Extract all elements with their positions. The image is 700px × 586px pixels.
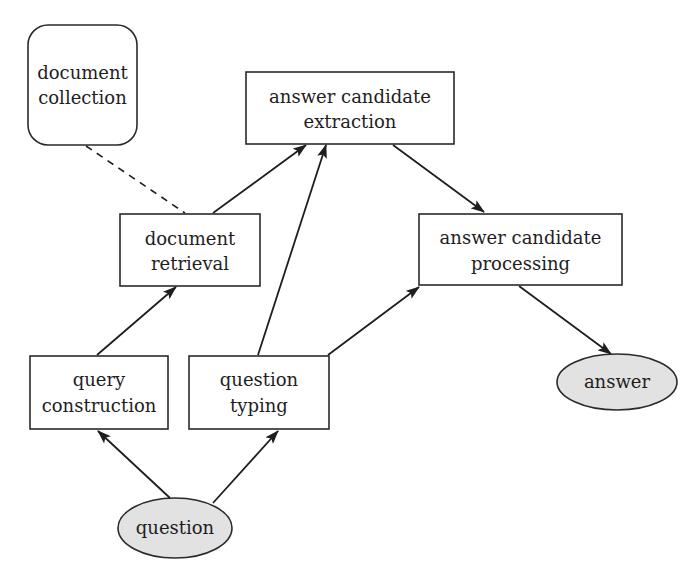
edges bbox=[86, 145, 611, 503]
question-typing-shape bbox=[189, 356, 329, 429]
edge-question-to-question-typing bbox=[213, 431, 278, 503]
question-label: question bbox=[136, 517, 215, 538]
document-retrieval-label-line1: document bbox=[145, 228, 236, 249]
question-typing-label-line2: typing bbox=[230, 395, 288, 416]
document-retrieval-label-line2: retrieval bbox=[151, 253, 229, 274]
edge-question-typing-to-processing bbox=[328, 287, 419, 355]
edge-question-typing-to-extraction bbox=[258, 145, 326, 355]
node-answer-candidate-processing: answer candidate processing bbox=[419, 214, 622, 285]
node-document-collection: document collection bbox=[28, 25, 137, 145]
node-answer: answer bbox=[557, 354, 677, 410]
edge-collection-to-retrieval bbox=[86, 146, 185, 213]
node-question-typing: question typing bbox=[189, 356, 329, 429]
qa-pipeline-diagram: document collection answer candidate ext… bbox=[0, 0, 700, 586]
node-answer-candidate-extraction: answer candidate extraction bbox=[246, 72, 454, 144]
edge-processing-to-answer bbox=[519, 286, 611, 354]
edge-retrieval-to-extraction bbox=[213, 145, 306, 213]
document-retrieval-shape bbox=[120, 214, 260, 286]
node-question: question bbox=[118, 498, 232, 558]
edge-query-construction-to-retrieval bbox=[97, 287, 176, 355]
document-collection-label-line1: document bbox=[37, 62, 128, 83]
answer-candidate-processing-shape bbox=[419, 214, 622, 285]
edge-extraction-to-processing bbox=[393, 145, 484, 212]
query-construction-shape bbox=[30, 356, 168, 429]
answer-label: answer bbox=[584, 371, 651, 392]
node-document-retrieval: document retrieval bbox=[120, 214, 260, 286]
answer-candidate-extraction-label-line2: extraction bbox=[304, 111, 397, 132]
answer-candidate-extraction-label-line1: answer candidate bbox=[269, 86, 431, 107]
query-construction-label-line1: query bbox=[73, 369, 126, 390]
document-collection-label-line2: collection bbox=[38, 87, 127, 108]
answer-candidate-processing-label-line2: processing bbox=[471, 253, 570, 274]
answer-candidate-extraction-shape bbox=[246, 72, 454, 144]
query-construction-label-line2: construction bbox=[42, 395, 157, 416]
question-typing-label-line1: question bbox=[220, 369, 299, 390]
node-query-construction: query construction bbox=[30, 356, 168, 429]
edge-question-to-query-construction bbox=[98, 431, 170, 498]
answer-candidate-processing-label-line1: answer candidate bbox=[440, 227, 602, 248]
document-collection-shape bbox=[28, 25, 137, 145]
